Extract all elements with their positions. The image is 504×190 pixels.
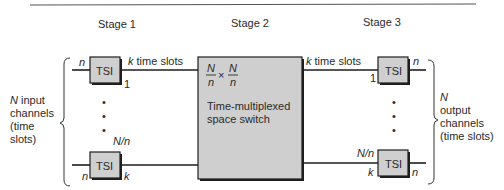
svg-text:channels: channels bbox=[10, 107, 55, 119]
stage3-bottom-tsi-label: TSI bbox=[385, 158, 402, 170]
tsi-tst-diagram: Stage 1 Stage 2 Stage 3 N input channels… bbox=[0, 0, 504, 190]
svg-text:n: n bbox=[230, 76, 236, 88]
svg-text:(time slots): (time slots) bbox=[440, 130, 494, 142]
switch-title-line1: Time-multiplexed bbox=[207, 100, 290, 112]
svg-text:N: N bbox=[440, 91, 448, 103]
input-channels-label: N input channels (time slots) bbox=[10, 94, 55, 145]
svg-text:N: N bbox=[207, 62, 215, 74]
stage3-link-label: k time slots bbox=[306, 55, 362, 67]
svg-text:N input: N input bbox=[10, 94, 45, 106]
stage1-bottom-index-label: N/n bbox=[113, 135, 130, 147]
input-brace bbox=[60, 58, 70, 186]
stage-3-title: Stage 3 bbox=[363, 16, 401, 28]
output-brace bbox=[428, 60, 438, 184]
svg-text:slots): slots) bbox=[10, 133, 36, 145]
svg-text:channels: channels bbox=[440, 117, 485, 129]
stage3-bottom-index-label: N/n bbox=[357, 147, 374, 159]
svg-text:×: × bbox=[218, 69, 224, 81]
stage-2-title: Stage 2 bbox=[231, 17, 269, 29]
svg-text:N: N bbox=[229, 62, 237, 74]
output-channels-label: N output channels (time slots) bbox=[440, 91, 494, 142]
stage3-bottom-in-label: k bbox=[368, 166, 374, 178]
svg-text:output: output bbox=[440, 104, 471, 116]
top-rule bbox=[30, 4, 476, 5]
stage1-top-out-label: 1 bbox=[124, 78, 130, 90]
stage3-ellipsis-3: • bbox=[392, 124, 396, 136]
stage1-bottom-tsi-label: TSI bbox=[96, 160, 113, 172]
stage1-bottom-out-label: k bbox=[124, 170, 130, 182]
stage3-bottom-out-label: n bbox=[412, 166, 418, 178]
switch-title-line2: space switch bbox=[207, 113, 270, 125]
stage1-ellipsis-1: • bbox=[102, 96, 106, 108]
stage3-ellipsis-1: • bbox=[392, 96, 396, 108]
stage3-top-out-label: n bbox=[413, 55, 419, 67]
svg-text:(time: (time bbox=[10, 120, 34, 132]
stage3-top-tsi-label: TSI bbox=[385, 65, 402, 77]
stage3-ellipsis-2: • bbox=[392, 110, 396, 122]
stage-1-title: Stage 1 bbox=[98, 18, 136, 30]
stage3-top-in-label: 1 bbox=[370, 72, 376, 84]
stage1-ellipsis-3: • bbox=[102, 124, 106, 136]
stage1-ellipsis-2: • bbox=[102, 110, 106, 122]
stage1-link-label: k time slots bbox=[128, 55, 184, 67]
stage1-top-in-label: n bbox=[79, 56, 85, 68]
svg-text:n: n bbox=[208, 76, 214, 88]
stage1-bottom-in-label: n bbox=[82, 170, 88, 182]
stage1-top-tsi-label: TSI bbox=[96, 65, 113, 77]
